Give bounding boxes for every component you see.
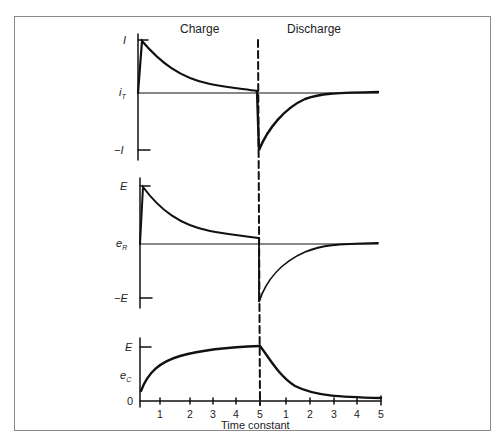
tick-discharge-3: 3 [331,409,337,420]
discharge-label: Discharge [287,23,341,35]
rc-curves-diagram [0,0,502,447]
tick-discharge-2: 2 [307,409,313,420]
switch-dashed-line [258,40,260,405]
tick-charge-5: 5 [257,409,263,420]
tick-charge-1: 1 [157,409,163,420]
er-max-label: E [120,181,127,192]
tick-charge-2: 2 [187,409,193,420]
er-discharge-curve [259,238,378,302]
ec-discharge-curve [260,346,381,398]
x-axis-label: Time constant [221,420,290,431]
current-discharge-curve [257,91,378,150]
tick-discharge-4: 4 [354,409,360,420]
current-max-label: I [123,35,126,46]
current-min-label: −I [114,145,123,156]
ec-zero-label: 0 [127,396,133,407]
er-min-label: −E [114,293,128,304]
ec-mid-label: eC [120,370,131,381]
ec-max-label: E [125,342,132,353]
ec-charge-curve [141,346,260,391]
charge-label: Charge [180,23,219,35]
tick-discharge-5: 5 [378,409,384,420]
current-charge-curve [138,41,257,93]
er-baseline-label: eR [116,238,127,249]
tick-discharge-1: 1 [283,409,289,420]
current-baseline-label: iT [119,87,126,98]
er-charge-curve [140,187,259,244]
tick-charge-4: 4 [233,409,239,420]
tick-charge-3: 3 [210,409,216,420]
